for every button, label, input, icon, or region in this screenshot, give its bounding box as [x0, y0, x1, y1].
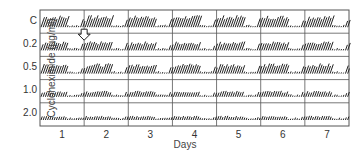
x-tick-label: 7 — [317, 129, 337, 140]
actogram-chart: Cycloheximide (µg/ml) C0.20.51.02.0 1234… — [0, 0, 357, 159]
row-label: C — [15, 15, 37, 26]
row-label: 0.2 — [15, 38, 37, 49]
x-tick-label: 1 — [52, 129, 72, 140]
x-tick-label: 3 — [140, 129, 160, 140]
row-label: 2.0 — [15, 107, 37, 118]
x-tick-label: 6 — [273, 129, 293, 140]
x-tick-label: 5 — [229, 129, 249, 140]
x-axis-label: Days — [174, 139, 197, 150]
arrow-down-icon — [78, 29, 90, 40]
row-label: 1.0 — [15, 84, 37, 95]
x-tick-label: 2 — [96, 129, 116, 140]
y-axis-label: Cycloheximide (µg/ml) — [46, 18, 57, 117]
row-label: 0.5 — [15, 61, 37, 72]
